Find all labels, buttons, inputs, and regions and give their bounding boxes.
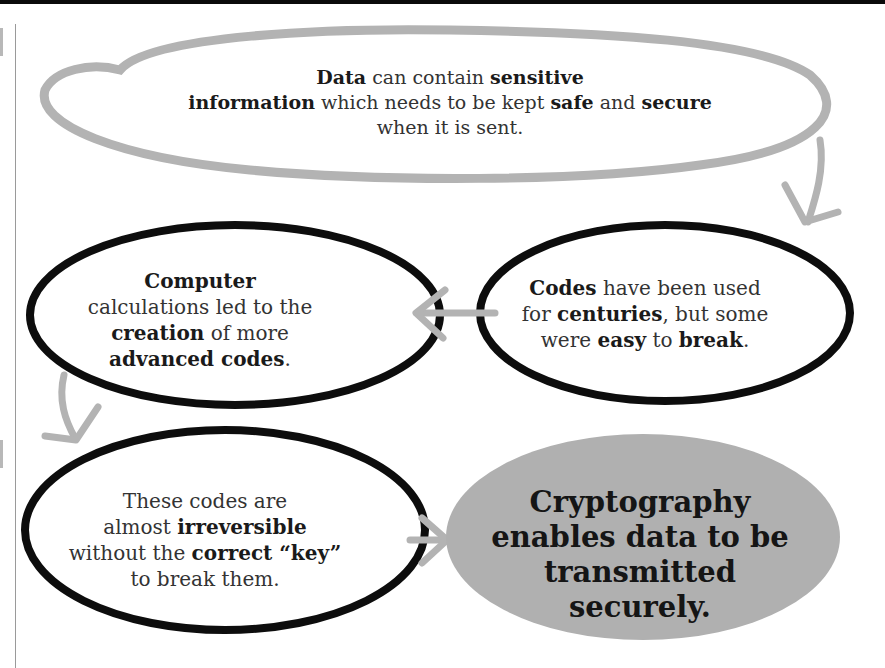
text-line: to break them. (55, 566, 355, 592)
text-line: calculations led to the (55, 294, 345, 320)
text-line: when it is sent. (140, 115, 760, 140)
irreversible-codes-text: These codes are almost irreversible with… (55, 488, 355, 592)
bold-term: information (188, 91, 315, 113)
cryptography-text: Cryptography enables data to be transmit… (480, 485, 800, 625)
bold-term: sensitive (490, 66, 584, 88)
bold-term: Computer (144, 269, 255, 293)
text-run: for (522, 302, 557, 326)
bold-term: Codes (529, 276, 596, 300)
text-line: for centuries, but some (505, 301, 785, 327)
bold-term: secure (641, 91, 711, 113)
text-run: to (646, 328, 679, 352)
text-line: Data can contain sensitive (140, 65, 760, 90)
arrow-down-icon (785, 140, 838, 222)
text-line: Cryptography (480, 485, 800, 520)
bold-term: easy (597, 328, 646, 352)
text-line: Computer (55, 268, 345, 294)
text-run: and (594, 91, 642, 113)
bold-term: irreversible (177, 515, 306, 539)
text-line: transmitted securely. (480, 555, 800, 625)
bold-term: advanced codes (109, 347, 284, 371)
text-line: These codes are (55, 488, 355, 514)
text-run: were (541, 328, 598, 352)
text-run: These codes are (123, 489, 287, 513)
text-run: . (743, 328, 749, 352)
text-run: when it is sent. (377, 116, 524, 138)
text-run: of more (204, 321, 289, 345)
text-run: to break them. (130, 567, 279, 591)
text-line: enables data to be (480, 520, 800, 555)
bold-term: centuries (557, 302, 662, 326)
text-run: can contain (366, 66, 490, 88)
text-run: have been used (597, 276, 761, 300)
bold-term: break (679, 328, 743, 352)
text-line: were easy to break. (505, 327, 785, 353)
bold-term: Data (316, 66, 366, 88)
text-line: without the correct “key” (55, 540, 355, 566)
bold-term: correct “key” (192, 541, 342, 565)
arrow-down-icon (45, 375, 98, 440)
codes-centuries-text: Codes have been used for centuries, but … (505, 275, 785, 353)
data-sensitive-text: Data can contain sensitive information w… (140, 65, 760, 140)
text-run: almost (103, 515, 177, 539)
text-line: advanced codes. (55, 346, 345, 372)
text-line: almost irreversible (55, 514, 355, 540)
text-run: calculations led to the (88, 295, 312, 319)
text-run: . (285, 347, 291, 371)
text-run: which needs to be kept (315, 91, 550, 113)
text-line: information which needs to be kept safe … (140, 90, 760, 115)
bold-term: creation (111, 321, 204, 345)
text-line: Codes have been used (505, 275, 785, 301)
text-run: , but some (662, 302, 768, 326)
computer-calculations-text: Computer calculations led to the creatio… (55, 268, 345, 372)
text-line: creation of more (55, 320, 345, 346)
bold-term: safe (550, 91, 593, 113)
text-run: without the (69, 541, 192, 565)
